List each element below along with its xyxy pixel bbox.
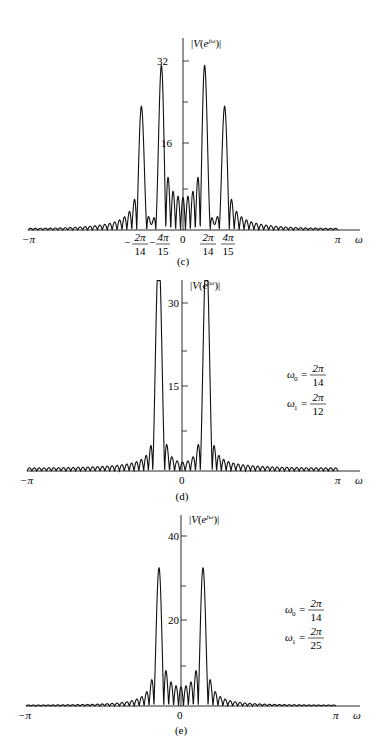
- svg-text:1: 1: [292, 638, 296, 646]
- svg-text:=: =: [299, 603, 305, 615]
- xtick-neg-pi: −π: [22, 233, 35, 245]
- panel-d: |V(ejω)| 30 15 −π π ω 0 ω 0 = 2π 14 ω 1 …: [20, 279, 363, 503]
- caption-e: (e): [175, 724, 188, 737]
- annotation-w0: ω 0 = 2π 14: [285, 597, 324, 623]
- xtick-zero: 0: [179, 474, 185, 486]
- caption-d: (d): [176, 490, 189, 503]
- svg-text:14: 14: [311, 611, 323, 623]
- annotation-w1: ω 1 = 2π 12: [287, 391, 326, 417]
- svg-text:4π: 4π: [157, 231, 169, 243]
- svg-text:2π: 2π: [202, 231, 214, 243]
- svg-text:25: 25: [311, 639, 323, 651]
- caption-c: (c): [177, 255, 190, 268]
- panel-e: |V(ejω)| 40 20 −π π ω 0 ω 0 = 2π 14 ω 1 …: [18, 513, 361, 737]
- xtick-4pi-15: 4π 15: [221, 231, 235, 257]
- y-axis-label: |V(ejω)|: [190, 279, 220, 292]
- svg-text:1: 1: [294, 404, 298, 412]
- x-axis-label: ω: [353, 709, 361, 721]
- xtick-2pi-14: 2π 14: [200, 231, 216, 257]
- xtick-pi: π: [335, 474, 341, 486]
- xtick-neg-2pi-14: − 2π 14: [124, 231, 148, 257]
- svg-text:−: −: [149, 236, 155, 248]
- svg-text:2π: 2π: [312, 362, 324, 374]
- xtick-pi: π: [335, 233, 341, 245]
- y-axis-label: |V(ejω)|: [191, 37, 221, 50]
- xtick-pi: π: [333, 709, 339, 721]
- xtick-neg-pi: −π: [18, 709, 31, 721]
- figure: |V(ejω)| 32 16 −π π ω 0 − 2π 14 − 4π 15 …: [0, 0, 377, 741]
- panel-c: |V(ejω)| 32 16 −π π ω 0 − 2π 14 − 4π 15 …: [22, 37, 363, 268]
- y-axis-label: |V(ejω)|: [189, 513, 219, 526]
- ytick-30: 30: [168, 297, 180, 309]
- svg-text:=: =: [299, 631, 305, 643]
- xtick-neg-pi: −π: [20, 474, 33, 486]
- xtick-zero: 0: [177, 709, 183, 721]
- svg-text:14: 14: [135, 245, 147, 257]
- svg-text:2π: 2π: [310, 597, 322, 609]
- svg-text:−: −: [124, 236, 130, 248]
- svg-text:=: =: [301, 397, 307, 409]
- svg-text:=: =: [301, 368, 307, 380]
- x-axis-label: ω: [355, 474, 363, 486]
- svg-text:15: 15: [158, 245, 170, 257]
- ytick-32: 32: [157, 55, 168, 67]
- svg-text:2π: 2π: [310, 625, 322, 637]
- svg-text:2π: 2π: [134, 231, 146, 243]
- annotation-w1: ω 1 = 2π 25: [285, 625, 324, 651]
- svg-text:4π: 4π: [222, 231, 234, 243]
- xtick-neg-4pi-15: − 4π 15: [149, 231, 170, 257]
- ytick-40: 40: [168, 530, 180, 542]
- annotation-w0: ω 0 = 2π 14: [287, 362, 326, 388]
- ytick-16: 16: [161, 137, 173, 149]
- svg-text:15: 15: [223, 245, 235, 257]
- svg-text:14: 14: [203, 245, 215, 257]
- svg-text:0: 0: [294, 375, 298, 383]
- x-axis-label: ω: [355, 233, 363, 245]
- svg-text:2π: 2π: [312, 391, 324, 403]
- ytick-15: 15: [168, 380, 180, 392]
- svg-text:0: 0: [292, 610, 296, 618]
- xtick-zero: 0: [180, 233, 186, 245]
- svg-text:14: 14: [313, 376, 325, 388]
- svg-text:12: 12: [313, 405, 324, 417]
- ytick-20: 20: [168, 614, 180, 626]
